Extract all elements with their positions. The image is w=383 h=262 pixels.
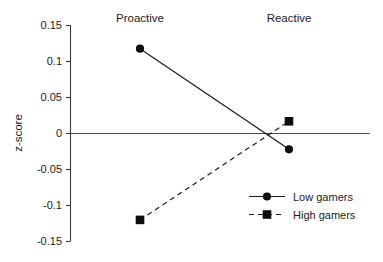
- data-point-high-gamers-reactive: [285, 117, 294, 126]
- legend-entry-high-gamers: High gamers: [249, 209, 356, 221]
- legend-entry-low-gamers: Low gamers: [249, 191, 353, 203]
- y-tick-label-0: 0: [56, 127, 62, 139]
- y-tick-label-neg0.15: -0.15: [37, 235, 62, 247]
- y-axis-title: z-score: [12, 114, 24, 152]
- data-point-low-gamers-proactive: [136, 45, 144, 53]
- chart-container: Proactive Reactive 0.15 0.1 0.05 0 -0.05…: [0, 0, 383, 262]
- series-line-high-gamers: [140, 121, 289, 220]
- series-line-low-gamers: [140, 49, 289, 150]
- y-tick-label-neg0.1: -0.1: [43, 199, 62, 211]
- legend-label-low-gamers: Low gamers: [293, 191, 353, 203]
- category-label-reactive: Reactive: [267, 12, 312, 24]
- legend-circle-marker-icon: [263, 192, 271, 200]
- data-point-low-gamers-reactive: [285, 145, 293, 153]
- legend-square-marker-icon: [263, 210, 272, 219]
- data-point-high-gamers-proactive: [136, 216, 145, 225]
- legend: Low gamers High gamers: [249, 191, 356, 221]
- y-tick-label-0.15: 0.15: [41, 19, 62, 31]
- legend-label-high-gamers: High gamers: [293, 209, 356, 221]
- y-tick-label-neg0.05: -0.05: [37, 163, 62, 175]
- y-tick-label-0.05: 0.05: [41, 91, 62, 103]
- y-tick-label-0.1: 0.1: [47, 55, 62, 67]
- interaction-line-chart: Proactive Reactive 0.15 0.1 0.05 0 -0.05…: [0, 0, 383, 262]
- category-label-proactive: Proactive: [116, 12, 164, 24]
